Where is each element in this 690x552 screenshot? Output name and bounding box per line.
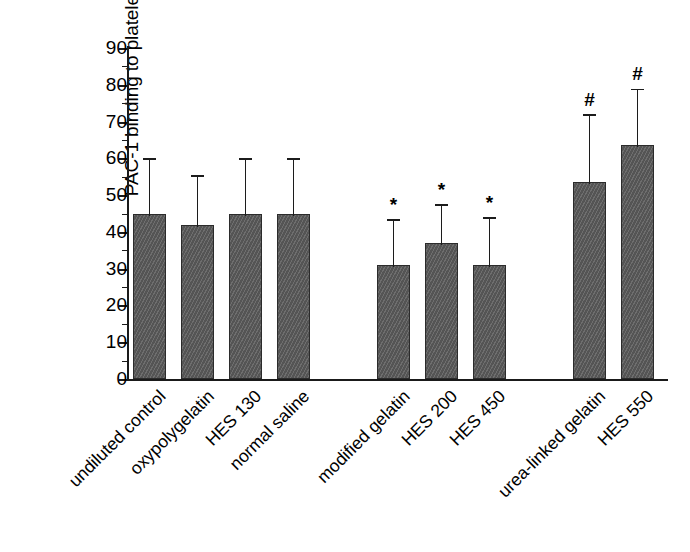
error-bar [245, 160, 247, 215]
y-axis-title-container: PAC-1 binding to platelets (% gated) [52, 30, 82, 390]
bar [573, 182, 606, 379]
y-tick-mark [122, 66, 127, 67]
error-bar [393, 221, 395, 267]
error-bar [637, 90, 639, 147]
significance-marker: * [390, 195, 397, 214]
error-bar-cap [287, 158, 300, 160]
y-tick-label: 10 [93, 331, 127, 353]
error-bar [293, 160, 295, 215]
error-bar [589, 116, 591, 184]
y-tick-label: 20 [93, 294, 127, 316]
error-bar [149, 160, 151, 215]
bar [425, 243, 458, 379]
bar [377, 265, 410, 379]
error-bar-cap [631, 89, 644, 91]
bar [181, 225, 214, 379]
y-tick-label: 80 [93, 74, 127, 96]
y-tick-mark [122, 177, 127, 178]
significance-marker: # [632, 64, 643, 83]
y-tick-mark [122, 250, 127, 251]
y-tick-mark [122, 361, 127, 362]
bar [473, 265, 506, 379]
significance-marker: # [584, 90, 595, 109]
y-tick-label: 50 [93, 184, 127, 206]
y-tick-mark [122, 140, 127, 141]
y-tick-label: 30 [93, 258, 127, 280]
bar [277, 214, 310, 380]
significance-marker: * [438, 180, 445, 199]
bar [133, 214, 166, 380]
plot-area: 0102030405060708090 ***## [127, 48, 667, 379]
y-tick-label: 0 [93, 368, 127, 390]
y-tick-label: 70 [93, 111, 127, 133]
error-bar-cap [143, 158, 156, 160]
chart-figure: PAC-1 binding to platelets (% gated) 010… [0, 0, 690, 552]
y-tick-mark [122, 103, 127, 104]
x-axis-line [127, 379, 668, 381]
bar [229, 214, 262, 380]
error-bar-cap [239, 158, 252, 160]
bar [621, 145, 654, 379]
y-tick-label: 90 [93, 37, 127, 59]
error-bar-cap [435, 204, 448, 206]
y-tick-mark [122, 287, 127, 288]
error-bar [441, 206, 443, 245]
y-tick-label: 60 [93, 147, 127, 169]
error-bar-cap [583, 114, 596, 116]
y-tick-label: 40 [93, 221, 127, 243]
y-tick-mark [122, 214, 127, 215]
error-bar [197, 177, 199, 227]
error-bar-cap [387, 219, 400, 221]
error-bar [489, 219, 491, 267]
error-bar-cap [483, 217, 496, 219]
significance-marker: * [486, 193, 493, 212]
x-tick-label: urea-linked gelatin [494, 386, 610, 502]
y-tick-mark [122, 324, 127, 325]
error-bar-cap [191, 175, 204, 177]
